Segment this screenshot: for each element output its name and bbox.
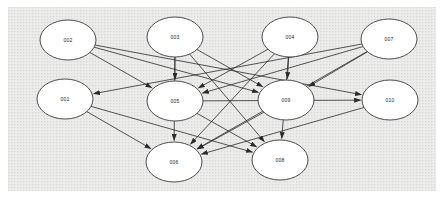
node-label-005: 005 [171,98,180,104]
graph-node-002[interactable]: 002 [40,20,96,60]
node-label-002: 002 [64,37,73,43]
node-label-008: 008 [276,157,285,163]
graph-node-004[interactable]: 004 [262,17,318,57]
graph-edge-002-to-005[interactable] [90,52,152,87]
node-layer: 002003004007001005009010006008 [37,17,418,182]
graph-edge-002-to-010[interactable] [95,45,361,95]
node-label-004: 004 [286,34,295,40]
graph-node-009[interactable]: 009 [258,80,314,120]
node-label-003: 003 [171,34,180,40]
graph-edge-004-to-005[interactable] [198,49,267,88]
graph-edge-001-to-006[interactable] [87,112,151,149]
node-label-001: 001 [61,96,70,102]
diagram-canvas-wrap: 002003004007001005009010006008 [8,7,436,191]
graph-node-008[interactable]: 008 [252,140,308,180]
graph-edge-007-to-009[interactable] [309,52,368,87]
node-label-007: 007 [385,36,394,42]
node-label-009: 009 [282,97,291,103]
graph-canvas[interactable]: 002003004007001005009010006008 [8,7,436,191]
diagram-viewer: 002003004007001005009010006008 [0,0,445,202]
graph-node-003[interactable]: 003 [147,17,203,57]
graph-node-001[interactable]: 001 [37,79,93,119]
node-label-006: 006 [170,159,179,165]
graph-edge-007-to-001[interactable] [94,44,362,94]
graph-node-010[interactable]: 010 [362,80,418,120]
graph-node-007[interactable]: 007 [361,19,417,59]
graph-node-005[interactable]: 005 [147,81,203,121]
edge-layer [87,44,368,154]
graph-edge-005-to-008[interactable] [197,113,257,146]
graph-edge-009-to-006[interactable] [197,112,263,149]
node-label-010: 010 [386,97,395,103]
graph-node-006[interactable]: 006 [146,142,202,182]
